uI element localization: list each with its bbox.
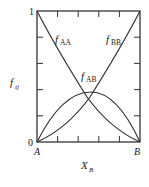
svg-text:X: X bbox=[80, 159, 89, 171]
y-axis-title: f ij bbox=[10, 76, 19, 91]
svg-text:ij: ij bbox=[15, 83, 19, 91]
y-bottom-label: 0 bbox=[28, 137, 33, 148]
svg-text:BB: BB bbox=[111, 38, 121, 47]
svg-text:AA: AA bbox=[60, 38, 71, 47]
label-f-aa: f AA bbox=[55, 33, 71, 47]
label-f-ab: f AB bbox=[81, 70, 96, 84]
x-right-label-B: B bbox=[134, 146, 140, 157]
x-left-label-A: A bbox=[33, 146, 41, 157]
x-ticks-top bbox=[58, 11, 120, 17]
x-ticks-bottom bbox=[58, 136, 120, 142]
svg-text:B: B bbox=[89, 166, 94, 174]
label-f-bb: f BB bbox=[106, 33, 121, 47]
y-ticks-right bbox=[134, 37, 140, 116]
y-top-label: 1 bbox=[29, 6, 34, 17]
y-ticks-left bbox=[37, 37, 43, 116]
svg-text:AB: AB bbox=[86, 75, 96, 84]
pair-fraction-chart: 1 0 A B f ij X B f AA f BB f AB bbox=[0, 0, 149, 187]
x-axis-title: X B bbox=[80, 159, 94, 174]
